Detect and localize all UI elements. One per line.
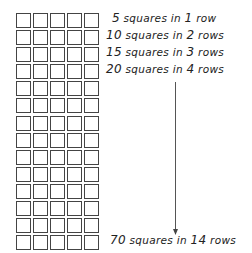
down-arrow-icon xyxy=(0,0,252,253)
